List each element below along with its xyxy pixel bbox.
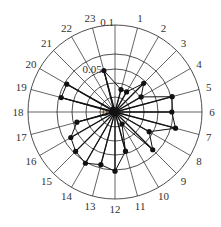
- angle-label-7: 7: [206, 131, 212, 143]
- data-point-1: [118, 87, 123, 92]
- angle-label-20: 20: [25, 58, 37, 70]
- data-point-6: [169, 109, 174, 114]
- ring-label-0-1: 0.1: [100, 16, 114, 28]
- center-hub: [111, 108, 119, 116]
- angle-label-1: 1: [137, 12, 143, 24]
- angle-label-11: 11: [135, 200, 146, 212]
- angle-label-8: 8: [196, 155, 202, 167]
- angle-label-23: 23: [84, 12, 96, 24]
- angle-label-12: 12: [110, 203, 121, 214]
- data-point-23: [101, 68, 106, 73]
- angle-label-2: 2: [161, 22, 167, 34]
- angle-label-13: 13: [84, 200, 96, 212]
- angle-label-5: 5: [206, 81, 212, 93]
- data-point-8: [147, 129, 152, 134]
- angle-label-6: 6: [209, 106, 215, 118]
- data-point-7: [173, 126, 178, 131]
- data-point-17: [74, 120, 79, 125]
- data-point-20: [64, 82, 69, 87]
- angle-label-9: 9: [181, 175, 187, 187]
- angle-label-4: 4: [196, 58, 202, 70]
- angle-label-10: 10: [158, 190, 170, 202]
- data-point-3: [141, 81, 146, 86]
- data-point-10: [119, 121, 124, 126]
- data-point-14: [83, 161, 88, 166]
- figure-caption: [2, 214, 221, 224]
- angle-label-15: 15: [41, 175, 53, 187]
- angle-label-3: 3: [181, 37, 187, 49]
- data-point-2: [124, 89, 129, 94]
- spoke-21: [53, 50, 115, 112]
- data-point-11: [123, 149, 128, 154]
- data-point-9: [150, 147, 155, 152]
- data-point-15: [73, 149, 78, 154]
- angle-label-21: 21: [41, 37, 52, 49]
- angle-label-17: 17: [16, 131, 28, 143]
- data-point-12: [112, 169, 117, 174]
- angle-label-19: 19: [16, 81, 28, 93]
- data-point-19: [59, 95, 64, 100]
- angle-label-18: 18: [13, 106, 25, 118]
- angle-label-22: 22: [61, 22, 72, 34]
- polar-chart: 12345678910111213141516171819202122230.1…: [0, 0, 221, 214]
- data-point-16: [68, 135, 73, 140]
- data-point-5: [170, 94, 175, 99]
- data-point-13: [98, 162, 103, 167]
- angle-label-14: 14: [61, 190, 73, 202]
- ring-label-0-05: 0.05: [82, 63, 102, 75]
- angle-label-16: 16: [25, 155, 37, 167]
- data-point-4: [139, 94, 144, 99]
